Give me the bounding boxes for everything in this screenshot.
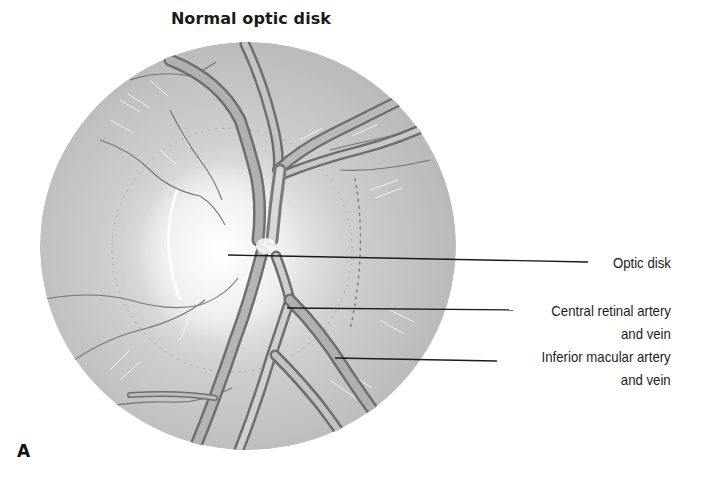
panel-letter: A: [17, 441, 30, 461]
label-line: and vein: [551, 322, 671, 345]
label-central-retinal-artery-vein: Central retinal artery and vein: [551, 299, 671, 345]
label-inferior-macular-artery-vein: Inferior macular artery and vein: [542, 345, 671, 391]
fundus: [40, 42, 456, 460]
label-line: Inferior macular artery: [542, 345, 671, 368]
label-line: Central retinal artery: [551, 299, 671, 322]
fundus-illustration: [0, 0, 702, 480]
figure-title: Normal optic disk: [0, 9, 502, 28]
label-optic-disk: Optic disk: [613, 251, 671, 274]
label-line: Optic disk: [613, 251, 671, 274]
label-line: and vein: [542, 368, 671, 391]
